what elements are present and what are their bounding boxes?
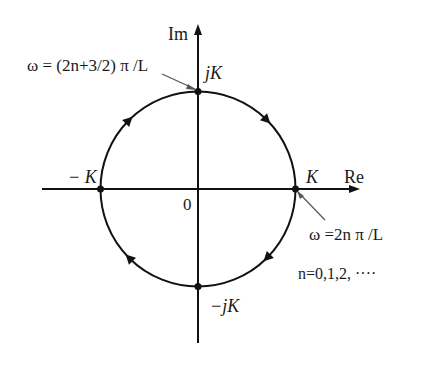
annotation-n-values: n=0,1,2, ···· [298, 265, 376, 282]
label-negjK: −jK [210, 296, 240, 316]
label-K: K [305, 167, 319, 187]
point-negK [97, 186, 104, 193]
annotation-omega-right: ω =2n π /L [309, 225, 383, 244]
real-axis-label: Re [344, 167, 364, 187]
point-jK [195, 88, 202, 95]
imag-axis-arrow-icon [194, 24, 202, 35]
point-K [292, 186, 299, 193]
leader-top-arrow-icon [186, 84, 196, 90]
annotation-omega-top: ω = (2n+3/2) π /L [27, 56, 148, 75]
origin-label: 0 [183, 195, 192, 214]
imag-axis-label: Im [168, 24, 188, 44]
point-negjK [195, 283, 202, 290]
complex-plane-diagram: Im Re 0 jK K − K −jK ω = (2n+3/2) π /L ω… [0, 0, 426, 365]
label-negK: − K [68, 167, 98, 187]
label-jK: jK [203, 63, 223, 83]
